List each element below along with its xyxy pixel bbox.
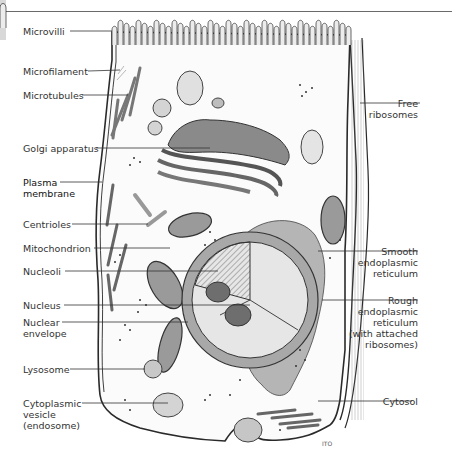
ribosome-dot [139, 161, 141, 163]
ribosome-dot [124, 399, 126, 401]
microvillus [310, 26, 315, 45]
microvillus [220, 26, 225, 45]
label-microfilament: Microfilament [23, 66, 88, 77]
label-mitochondrion: Mitochondrion [23, 243, 91, 254]
microvillus [238, 26, 243, 45]
ribosome-dot [209, 394, 211, 396]
label-free-ribosomes: Free ribosomes [369, 98, 418, 120]
microvillus [154, 20, 159, 45]
label-rough-er: Rough endoplasmic reticulum (with attach… [349, 295, 418, 350]
ribosome-dot [229, 394, 231, 396]
label-plasma-membrane: Plasma membrane [23, 177, 75, 199]
microvillus [328, 26, 333, 45]
microvillus [202, 26, 207, 45]
ribosome-dot [329, 257, 331, 259]
microvillus [166, 26, 171, 45]
microvillus [136, 20, 141, 45]
microvillus [178, 23, 183, 45]
ribosome-dot [279, 429, 281, 431]
microvillus [244, 20, 249, 45]
microvillus [112, 26, 117, 45]
microvillus [184, 26, 189, 45]
microvillus [214, 23, 219, 45]
label-nuclear-envelope: Nuclear envelope [23, 317, 67, 339]
ribosome-dot [214, 239, 216, 241]
ribosome-dot [139, 299, 141, 301]
microvillus [334, 20, 339, 45]
microvillus [148, 26, 153, 45]
ribosome-dot [137, 311, 139, 313]
ribosome-dot [129, 329, 131, 331]
microvillus [232, 23, 237, 45]
microvillus [160, 23, 165, 45]
microvillus [292, 26, 297, 45]
label-microvilli: Microvilli [23, 26, 65, 37]
ribosome-dot [119, 339, 121, 341]
ribosome-dot [295, 365, 297, 367]
microvillus [250, 23, 255, 45]
artist-signature: ITO [322, 440, 332, 447]
label-centrioles: Centrioles [23, 219, 71, 230]
microvillus [280, 20, 285, 45]
ribosome-dot [305, 91, 307, 93]
microvillus [190, 20, 195, 45]
ribosome-dot [304, 359, 306, 361]
microvillus [142, 23, 147, 45]
microvillus [226, 20, 231, 45]
microvillus [172, 20, 177, 45]
ribosome-dot [301, 95, 303, 97]
microvillus [262, 20, 267, 45]
cytoplasmic-vesicle [153, 393, 183, 417]
endocytic-pit [234, 418, 262, 442]
microvilli [0, 4, 6, 29]
lysosome [144, 360, 162, 378]
microvillus [322, 23, 327, 45]
ribosome-dot [204, 244, 206, 246]
ribosome-dot [114, 261, 116, 263]
microvillus [316, 20, 321, 45]
nucleus [182, 232, 318, 368]
ribosome-dot [204, 399, 206, 401]
microvillus [124, 23, 129, 45]
label-cytosol: Cytosol [383, 396, 418, 407]
microvillus [298, 20, 303, 45]
ribosome-dot [209, 231, 211, 233]
ribosome-dot [124, 324, 126, 326]
ribosome-dot [129, 409, 131, 411]
microvillus [340, 23, 345, 45]
label-smooth-er: Smooth endoplasmic reticulum [358, 246, 418, 279]
label-microtubules: Microtubules [23, 90, 84, 101]
ribosome-dot [339, 239, 341, 241]
ribosome-dot [311, 87, 313, 89]
ribosome-dot [133, 157, 135, 159]
label-lysosome: Lysosome [23, 364, 70, 375]
microvillus [256, 26, 261, 45]
label-cytoplasmic-vesicle: Cytoplasmic vesicle (endosome) [23, 398, 81, 431]
ribosome-dot [129, 164, 131, 166]
label-nucleoli: Nucleoli [23, 266, 61, 277]
microvillus [274, 26, 279, 45]
microvillus [130, 26, 135, 45]
microvillus [268, 23, 273, 45]
label-golgi-apparatus: Golgi apparatus [23, 143, 99, 154]
ribosome-dot [119, 254, 121, 256]
microvillus [196, 23, 201, 45]
microvillus [208, 20, 213, 45]
microvillus [118, 20, 123, 45]
ribosome-dot [299, 349, 301, 351]
ribosome-dot [239, 379, 241, 381]
microvillus [286, 23, 291, 45]
label-nucleus: Nucleus [23, 300, 61, 311]
ribosome-dot [299, 84, 301, 86]
microvillus [346, 26, 351, 45]
microvillus [304, 23, 309, 45]
